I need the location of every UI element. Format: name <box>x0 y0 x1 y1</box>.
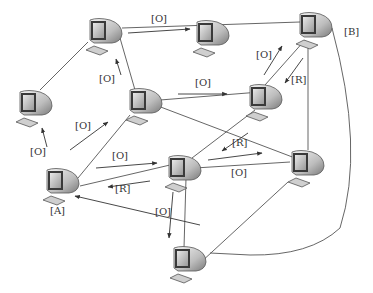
node-n1 <box>86 19 122 56</box>
network-diagram <box>0 0 373 293</box>
node-n7-a <box>43 169 79 206</box>
connection-lines <box>40 22 351 263</box>
edge-label-o: [O] <box>195 78 211 88</box>
edge-label-o: [O] <box>99 74 115 84</box>
edge-label-r: [R] <box>232 138 247 148</box>
arrows <box>42 29 303 238</box>
edge-label-o: [O] <box>231 168 247 178</box>
node-n10 <box>170 247 206 284</box>
node-n2 <box>193 21 229 58</box>
computer-icon <box>86 19 122 56</box>
node-n9 <box>288 151 324 188</box>
computer-icon <box>43 169 79 206</box>
edge-label-r: [R] <box>291 75 306 85</box>
node-n3-b <box>296 13 332 50</box>
computer-icon <box>126 89 162 126</box>
edge-label-o: [O] <box>155 207 171 217</box>
node-label-a: [A] <box>50 206 65 216</box>
node-n8 <box>165 156 201 193</box>
computer-icon <box>170 247 206 284</box>
edge-label-o: [O] <box>30 147 46 157</box>
computer-icon <box>288 151 324 188</box>
node-n5 <box>126 89 162 126</box>
edge-label-r: [R] <box>115 184 130 194</box>
computer-icon <box>193 21 229 58</box>
computer-icon <box>296 13 332 50</box>
node-n6 <box>246 85 282 122</box>
node-label-b: [B] <box>344 27 359 37</box>
computer-icon <box>16 91 52 128</box>
edge-label-o: [O] <box>256 50 272 60</box>
edge-label-o: [O] <box>112 151 128 161</box>
node-n4 <box>16 91 52 128</box>
computer-icon <box>246 85 282 122</box>
edge-label-o: [O] <box>151 14 167 24</box>
edge-label-o: [O] <box>75 121 91 131</box>
computer-icon <box>165 156 201 193</box>
